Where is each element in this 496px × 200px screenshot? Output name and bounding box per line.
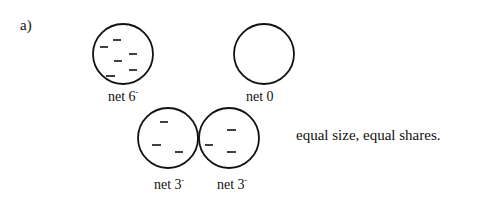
sphere-net-6 (93, 24, 153, 84)
label-net-3-right: net 3- (217, 178, 247, 192)
label-net-6: net 6- (108, 90, 138, 104)
sphere-net-3-left (138, 108, 198, 168)
caption: equal size, equal shares. (296, 128, 441, 143)
label-net-3-left: net 3- (154, 178, 184, 192)
label-net-0: net 0 (246, 90, 274, 104)
sphere-net-0 (234, 24, 294, 84)
sphere-net-3-right (199, 108, 259, 168)
